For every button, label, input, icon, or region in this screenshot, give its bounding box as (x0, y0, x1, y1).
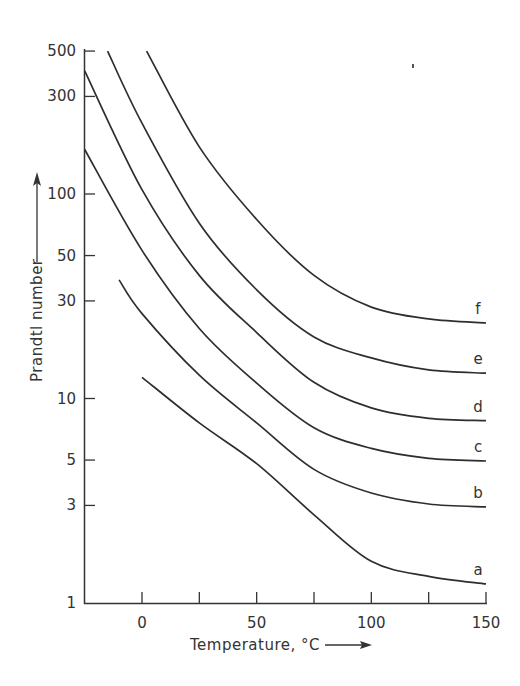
x-tick-label: 50 (247, 614, 266, 632)
curve-label-a: a (473, 561, 482, 579)
x-ticks: 050100150 (137, 592, 500, 632)
y-tick-label: 50 (57, 247, 76, 265)
curve-label-f: f (475, 300, 481, 318)
prandtl-chart: 135103050100300500 050100150 abcdef Temp… (0, 0, 520, 686)
y-tick-label: 100 (47, 185, 76, 203)
curve-label-c: c (474, 438, 482, 456)
y-tick-label: 10 (57, 390, 76, 408)
y-tick-label: 5 (66, 451, 76, 469)
y-tick-label: 1 (66, 594, 76, 612)
curve-label-e: e (473, 350, 482, 368)
x-tick-label: 150 (472, 614, 501, 632)
curve-f (147, 51, 486, 323)
y-tick-label: 30 (57, 292, 76, 310)
axes (84, 49, 487, 604)
x-axis-title-group: Temperature, °C (189, 636, 372, 654)
y-axis-title: Prandtl number (28, 258, 46, 382)
curve-a (142, 377, 486, 584)
x-tick-label: 0 (137, 614, 147, 632)
curve-d (85, 71, 486, 421)
y-tick-label: 3 (66, 496, 76, 514)
x-axis-title: Temperature, °C (189, 636, 320, 654)
y-axis-title-group: Prandtl number (28, 172, 46, 382)
curve-e (108, 51, 486, 373)
y-tick-label: 500 (47, 42, 76, 60)
x-tick-label: 100 (357, 614, 386, 632)
curve-labels: abcdef (473, 300, 483, 579)
curve-b (119, 280, 486, 507)
curve-label-d: d (473, 398, 483, 416)
speck-mark (412, 64, 414, 68)
y-tick-label: 300 (47, 87, 76, 105)
curve-label-b: b (473, 484, 483, 502)
y-ticks: 135103050100300500 (47, 42, 95, 612)
curves (85, 51, 486, 584)
